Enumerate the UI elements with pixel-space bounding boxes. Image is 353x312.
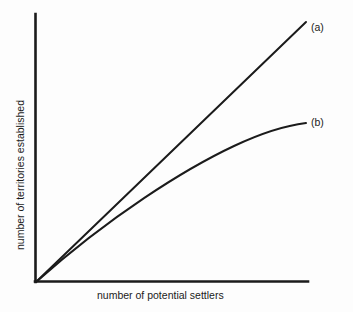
y-axis-title: number of territories established — [14, 100, 26, 250]
curve-b-line — [36, 123, 306, 282]
curve-label-b: (b) — [311, 116, 324, 128]
plot-area — [0, 0, 353, 312]
curve-label-a: (a) — [311, 21, 324, 33]
curve-a-line — [36, 22, 306, 282]
x-axis-title: number of potential settlers — [97, 289, 224, 301]
figure-container: (a) (b) number of potential settlers num… — [0, 0, 353, 312]
